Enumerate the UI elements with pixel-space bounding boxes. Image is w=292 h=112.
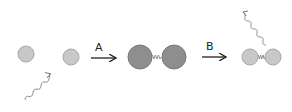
final-molecule xyxy=(242,49,281,65)
atom-dark-left xyxy=(128,45,152,69)
outgoing-photon-icon xyxy=(243,12,266,45)
spring-icon xyxy=(151,55,162,59)
step-b-label: B xyxy=(206,41,214,52)
excited-molecule xyxy=(128,45,186,69)
step-a-label: A xyxy=(95,42,103,53)
atom-dark-right xyxy=(162,45,186,69)
atom-right-initial xyxy=(63,49,79,65)
atom-light-right xyxy=(265,49,281,65)
atom-light-left xyxy=(242,49,258,65)
reaction-diagram xyxy=(0,0,292,112)
atom-left-initial xyxy=(18,46,34,62)
incoming-photon-icon xyxy=(20,74,56,100)
